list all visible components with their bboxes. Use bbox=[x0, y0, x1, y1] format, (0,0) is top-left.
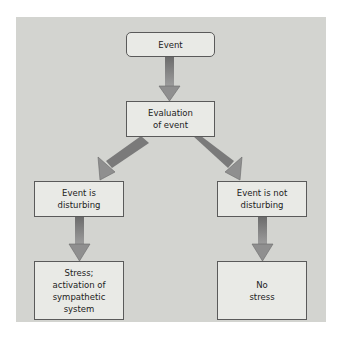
node-evaluation-label: Evaluation of event bbox=[148, 107, 193, 131]
node-event: Event bbox=[126, 32, 215, 57]
node-stress-label: Stress; activation of sympathetic system bbox=[53, 267, 106, 315]
node-stress: Stress; activation of sympathetic system bbox=[34, 261, 124, 320]
arrow-event-to-evaluation bbox=[159, 56, 180, 101]
arrow-evaluation-to-disturbing bbox=[98, 136, 149, 180]
node-event-disturbing-label: Event is disturbing bbox=[58, 187, 101, 211]
arrow-evaluation-to-not-disturbing bbox=[193, 136, 242, 180]
node-event-label: Event bbox=[158, 39, 182, 51]
node-no-stress: No stress bbox=[217, 261, 307, 320]
node-event-not-disturbing-label: Event is not disturbing bbox=[237, 187, 287, 211]
node-event-not-disturbing: Event is not disturbing bbox=[217, 181, 307, 217]
arrow-disturbing-to-stress bbox=[69, 216, 90, 261]
node-no-stress-label: No stress bbox=[249, 279, 274, 303]
arrow-not-disturbing-to-no-stress bbox=[252, 216, 273, 261]
node-evaluation: Evaluation of event bbox=[126, 101, 215, 137]
node-event-disturbing: Event is disturbing bbox=[34, 181, 124, 217]
